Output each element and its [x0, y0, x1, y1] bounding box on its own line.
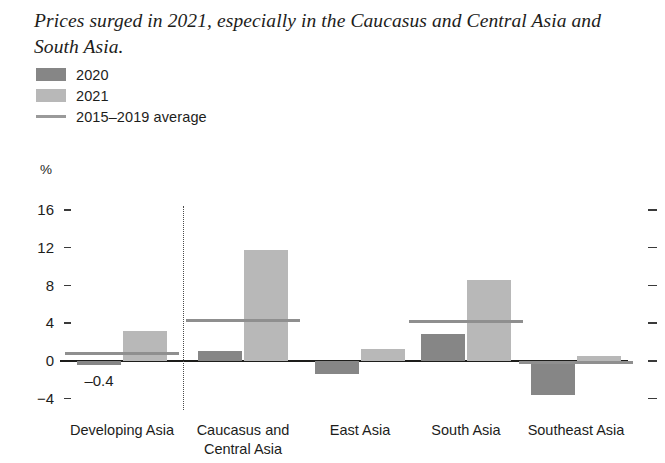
y-axis-tick-mark-right: [648, 247, 657, 249]
y-axis-unit-label: %: [40, 162, 52, 177]
bar-2021-rect: [577, 356, 621, 361]
bar-value-annotation: –0.4: [57, 372, 141, 389]
y-axis-tick-mark: [64, 398, 71, 400]
bar-2020-rect: [421, 334, 465, 361]
bar-2020-rect: [531, 361, 575, 395]
y-axis-tick-mark-right: [648, 209, 657, 211]
y-axis-tick-label: 12: [18, 239, 54, 256]
average-marker-line: [409, 320, 523, 323]
y-axis-tick-label: 16: [18, 201, 54, 218]
x-axis-category-label: South Asia: [404, 421, 528, 440]
average-marker-line: [65, 352, 179, 355]
category-separator-line: [183, 206, 184, 410]
y-axis-tick-mark-right: [648, 285, 657, 287]
bar-2020-rect: [77, 361, 121, 365]
y-axis-tick-label: 8: [18, 277, 54, 294]
bar-2020-rect: [198, 351, 242, 361]
y-axis-tick-mark-right: [648, 398, 657, 400]
y-axis-tick-mark: [64, 285, 71, 287]
y-axis-tick-mark: [64, 247, 71, 249]
bar-2020-rect: [315, 361, 359, 374]
y-axis-tick-mark-right: [648, 360, 657, 362]
x-axis-category-label: Caucasus and Central Asia: [181, 421, 305, 458]
bar-2021-rect: [123, 331, 167, 361]
chart-plot-area: %1612840−4Developing AsiaCaucasus and Ce…: [0, 0, 665, 463]
y-axis-tick-mark: [64, 209, 71, 211]
x-axis-category-label: Southeast Asia: [514, 421, 638, 440]
y-axis-tick-label: −4: [18, 390, 54, 407]
average-marker-line: [186, 319, 300, 322]
y-axis-tick-mark-right: [648, 322, 657, 324]
y-axis-tick-mark: [64, 322, 71, 324]
average-marker-line: [519, 361, 633, 364]
y-axis-tick-label: 4: [18, 314, 54, 331]
bar-2021-rect: [244, 250, 288, 361]
y-axis-tick-label: 0: [18, 352, 54, 369]
x-axis-category-label: Developing Asia: [60, 421, 184, 440]
bar-2021-rect: [361, 349, 405, 361]
